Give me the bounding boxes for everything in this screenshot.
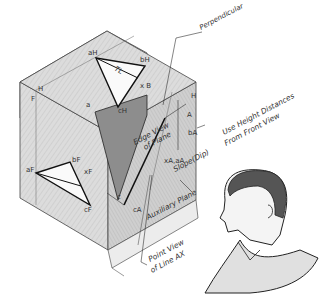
pt-x-front: xF: [84, 168, 92, 176]
pt-a-front: aF: [26, 166, 34, 174]
pt-c-aux: cA: [133, 206, 142, 214]
pt-x-a-aux: xA,aA: [164, 157, 184, 165]
pt-a-right: A: [187, 111, 192, 119]
pt-b-front: bF: [72, 156, 80, 164]
glass-box-illustration: Perpendicular Edge View of Plane Use Hei…: [0, 0, 332, 295]
pt-x-b: x B: [140, 82, 151, 90]
pt-a-top: aH: [88, 49, 98, 57]
pt-c-top: cH: [118, 107, 127, 115]
pt-h-left: H: [38, 85, 43, 93]
pt-b-aux: bA: [188, 129, 197, 137]
pt-c-front: cF: [84, 206, 92, 214]
label-perpendicular: Perpendicular: [198, 1, 245, 31]
pt-a: a: [86, 101, 90, 109]
pt-b-top: bH: [140, 56, 150, 64]
pt-h-right: H: [191, 92, 196, 100]
observer-figure: [205, 170, 318, 293]
pt-c-mid: c: [117, 193, 121, 201]
pt-f-left: F: [31, 95, 35, 103]
